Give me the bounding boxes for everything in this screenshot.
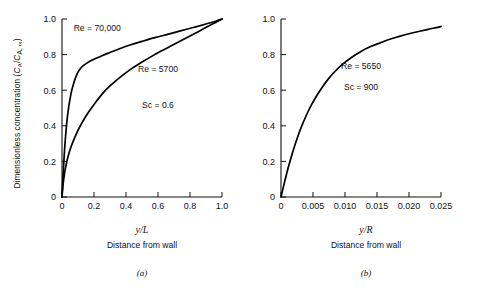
x-tick-label: 0 [59,201,64,211]
x-tick-label: 0.020 [398,201,421,211]
panel-b: 00.20.40.60.81.000.0050.0100.0150.0200.0… [241,0,482,297]
y-tick-label: 0.6 [43,86,56,96]
x-tick-label: 0.025 [430,201,453,211]
x-axis-title-scale: L [143,224,149,235]
plot-b-svg: 00.20.40.60.81.000.0050.0100.0150.0200.0… [241,0,482,215]
y-tick-label: 0.8 [43,50,56,60]
y-tick-label: 0.8 [262,50,275,60]
x-axis-sublabel-b: Distance from wall [281,240,451,250]
x-axis-title-a: y/L [62,224,222,235]
x-axis-sublabel-a: Distance from wall [62,240,222,250]
y-tick-label: 1.0 [262,14,275,24]
x-tick-label: 0.8 [184,201,197,211]
data-curve [281,26,441,197]
y-tick-label: 0 [51,192,56,202]
panel-caption-b: (b) [281,268,451,278]
y-tick-label: 1.0 [43,14,56,24]
x-tick-label: 0.6 [152,201,165,211]
x-tick-label: 1.0 [216,201,229,211]
panel-a: Dimensionless concentration (CA/CA, ∞) 0… [0,0,241,297]
plot-a-svg: 00.20.40.60.81.000.20.40.60.81.0Re = 70,… [0,0,241,215]
x-tick-label: 0.015 [366,201,389,211]
y-tick-label: 0 [270,192,275,202]
panel-caption-a: (a) [62,268,222,278]
x-tick-label: 0.005 [302,201,325,211]
x-tick-label: 0.4 [120,201,133,211]
x-tick-label: 0.2 [88,201,101,211]
figure-container: Dimensionless concentration (CA/CA, ∞) 0… [0,0,482,297]
y-tick-label: 0.2 [262,157,275,167]
plot-annotation: Re = 70,000 [74,23,121,33]
y-tick-label: 0.2 [43,157,56,167]
plot-annotation: Re = 5700 [138,64,178,74]
x-axis-title-scale: R [367,224,373,235]
y-tick-label: 0.6 [262,86,275,96]
x-tick-label: 0.010 [334,201,357,211]
y-tick-label: 0.4 [43,121,56,131]
x-axis-title-b: y/R [281,224,451,235]
x-tick-label: 0 [278,201,283,211]
plot-annotation: Sc = 900 [344,82,378,92]
y-tick-label: 0.4 [262,121,275,131]
plot-annotation: Re = 5650 [341,61,381,71]
plot-annotation: Sc = 0.6 [142,100,174,110]
